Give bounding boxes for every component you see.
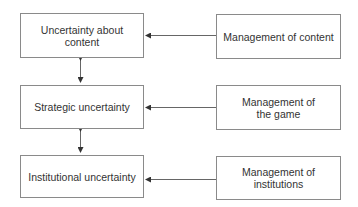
box-label: Management of institutions (241, 166, 316, 190)
box-label: Management of content (223, 31, 333, 43)
box-label: Management of the game (239, 96, 318, 120)
box-label: Strategic uncertainty (34, 101, 130, 113)
box-management-of-content: Management of content (216, 14, 341, 59)
box-label: Uncertainty about content (27, 24, 137, 48)
box-institutional-uncertainty: Institutional uncertainty (20, 155, 144, 198)
box-uncertainty-about-content: Uncertainty about content (20, 13, 144, 58)
box-management-of-the-game: Management of the game (216, 85, 341, 130)
box-management-of-institutions: Management of institutions (216, 156, 341, 200)
box-label: Institutional uncertainty (28, 171, 135, 183)
box-strategic-uncertainty: Strategic uncertainty (20, 85, 144, 129)
